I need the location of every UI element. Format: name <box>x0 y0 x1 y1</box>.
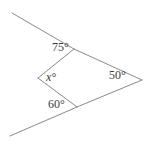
angle-label-50: 50° <box>109 69 126 81</box>
angle-label-x: x° <box>46 71 56 83</box>
geometry-figure: 75° x° 60° 50° <box>0 0 151 146</box>
right-to-bottom-line <box>77 80 142 107</box>
bottom-ray-line <box>10 107 77 136</box>
geometry-drawing <box>0 0 151 146</box>
top-to-right-line <box>74 49 142 80</box>
angle-label-75: 75° <box>52 41 69 53</box>
angle-label-60: 60° <box>48 98 65 110</box>
